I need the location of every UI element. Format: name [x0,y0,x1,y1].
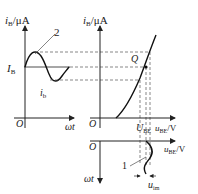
bottom-x-axis-label: uBE/V [164,144,186,155]
input-characteristic-curve [116,35,156,118]
right-y-axis-label: iB/μA [83,14,108,28]
curve-1-leader [130,157,146,166]
right-plot: Q iB/μA O UBE uBE/V [83,14,177,134]
ube-level-label: UBE [136,122,151,134]
bottom-origin-label: O [89,141,96,152]
left-x-axis-label: ωt [65,121,75,132]
amplitude-label: uim [148,179,160,191]
ib-sine-wave [25,52,69,81]
bottom-plot: 1 uim O uBE/V ωt [84,141,186,191]
right-origin-label: O [89,118,96,129]
curve-2-leader [35,34,55,54]
q-point-marker [144,65,147,68]
bjt-input-characteristic-diagram: 2 iB/μA IB ib O ωt Q iB/μA O UBE uBE/V 1 [0,0,198,194]
q-point-label: Q [131,53,139,64]
curve-2-label: 2 [54,26,60,38]
ib-wave-label: ib [40,87,47,100]
curve-1-label: 1 [122,160,127,171]
left-origin-label: O [16,118,23,129]
left-plot: 2 iB/μA IB ib O ωt [5,14,75,132]
right-x-axis-label: uBE/V [155,123,177,134]
bottom-y-axis-label: ωt [84,173,94,184]
left-y-axis-label: iB/μA [5,14,30,28]
ib-level-label: IB [6,62,16,76]
